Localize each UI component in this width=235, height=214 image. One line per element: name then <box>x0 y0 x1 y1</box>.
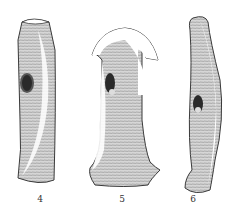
artifacts-drawing <box>0 0 235 214</box>
shaft-hole-icon <box>21 74 33 92</box>
artifact-6-label: 6 <box>187 194 199 204</box>
artifact-4 <box>18 19 55 183</box>
artifact-4-label: 4 <box>34 194 46 204</box>
artifact-6 <box>185 17 222 193</box>
artifact-5-label: 5 <box>116 194 128 204</box>
artifact-5 <box>90 28 160 187</box>
artifact-illustration: 4 5 6 <box>0 0 235 214</box>
